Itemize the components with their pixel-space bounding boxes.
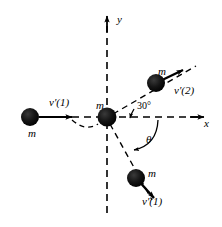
mass-label-scattered-upper: m [158,66,166,77]
velocity-label-scattered-lower: v′(1) [142,196,162,207]
physics-collision-diagram: y x m m m m v′(1) v′(2) v′(1) 30° θ [0,0,222,227]
mass-incoming [21,108,39,126]
x-axis-label: x [204,118,209,129]
angle-label-theta: θ [146,134,151,145]
mass-scattered-lower [127,169,145,187]
velocity-label-incoming: v′(1) [49,97,69,108]
velocity-label-scattered-upper: v′(2) [174,85,194,96]
mass-group [21,74,165,187]
y-axis-label: y [117,14,122,25]
angle-label-30: 30° [137,101,151,111]
mass-label-target: m [96,100,104,111]
incoming-deflection-arc [72,120,98,127]
mass-label-incoming: m [28,128,36,139]
angle-markers [130,109,158,150]
diagram-canvas [0,0,222,227]
mass-label-scattered-lower: m [148,168,156,179]
